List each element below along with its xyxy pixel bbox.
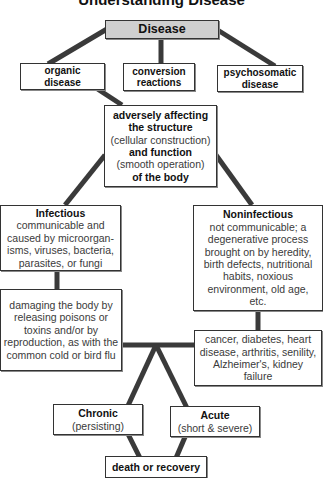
node-conversion-reactions: conversion reactions bbox=[123, 63, 195, 91]
node-disease: Disease bbox=[105, 20, 219, 39]
adversely-line3: (cellular construction) bbox=[111, 134, 211, 146]
chronic-heading: Chronic bbox=[78, 407, 118, 419]
node-psychosomatic-label: psychosomatic disease bbox=[218, 67, 302, 90]
outcome-label: death or recovery bbox=[112, 461, 200, 473]
node-chronic: Chronic (persisting) bbox=[53, 404, 143, 435]
node-conversion-label: conversion reactions bbox=[127, 66, 191, 89]
adversely-line2: the structure bbox=[128, 121, 192, 133]
connector-disease-psychosomatic bbox=[216, 29, 275, 66]
adversely-line6: of the body bbox=[132, 171, 189, 183]
node-damaging-the-body: damaging the body by releasing poisons o… bbox=[0, 289, 122, 371]
connector-bar-acute bbox=[156, 345, 188, 410]
adversely-line5: (smooth operation) bbox=[116, 158, 204, 170]
connector-adversely-infectious bbox=[65, 155, 105, 205]
examples-description: cancer, diabetes, heart disease, arthrit… bbox=[198, 333, 318, 383]
node-noninfectious-examples: cancer, diabetes, heart disease, arthrit… bbox=[194, 330, 322, 386]
node-death-or-recovery: death or recovery bbox=[105, 456, 207, 478]
acute-heading: Acute bbox=[200, 409, 229, 421]
node-infectious: Infectious communicable and caused by mi… bbox=[0, 205, 121, 271]
acute-description: (short & severe) bbox=[178, 422, 253, 434]
node-psychosomatic-disease: psychosomatic disease bbox=[217, 65, 303, 92]
infectious-heading: Infectious bbox=[36, 207, 86, 219]
adversely-line1: adversely affecting bbox=[113, 109, 208, 121]
node-adversely-affecting: adversely affecting the structure (cellu… bbox=[104, 105, 217, 187]
node-disease-label: Disease bbox=[138, 23, 185, 35]
connector-organic-adversely bbox=[96, 88, 122, 105]
connector-disease-organic bbox=[48, 29, 107, 64]
adversely-line4: and function bbox=[129, 146, 192, 158]
node-acute: Acute (short & severe) bbox=[170, 406, 260, 437]
connector-bar-chronic bbox=[126, 345, 156, 410]
noninfectious-description: not communicable; a degenerative process… bbox=[199, 221, 317, 308]
node-noninfectious: Noninfectious not communicable; a degene… bbox=[193, 205, 323, 311]
noninfectious-heading: Noninfectious bbox=[223, 208, 293, 220]
damaging-description: damaging the body by releasing poisons o… bbox=[2, 299, 120, 361]
connector-adversely-noninfectious bbox=[216, 155, 252, 205]
chronic-description: (persisting) bbox=[72, 420, 124, 432]
node-organic-label: organic disease bbox=[33, 65, 93, 88]
node-organic-disease: organic disease bbox=[20, 63, 105, 90]
infectious-description: communicable and caused by microorgan-is… bbox=[5, 219, 117, 269]
